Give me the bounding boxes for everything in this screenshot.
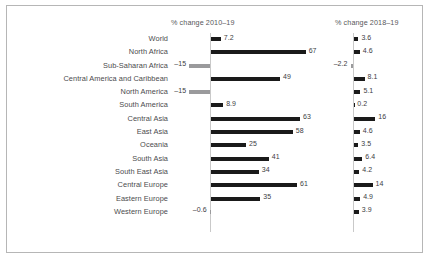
bar-right-panel-3 (354, 77, 365, 81)
bar-right-panel-9 (354, 157, 363, 161)
category-label: Oceania (0, 140, 168, 149)
chart-row: Western Europe–0.63.9 (0, 206, 429, 219)
value-label-right-panel-2: –2.2 (0, 60, 348, 67)
chart-figure: % change 2010–19 % change 2018–19 World7… (0, 0, 429, 274)
bar-left-panel-7 (211, 130, 293, 134)
chart-row: Central America and Caribbean498.1 (0, 73, 429, 86)
value-label-left-panel-6: 63 (303, 113, 311, 120)
value-label-left-panel-10: 34 (262, 166, 270, 173)
category-label: Central America and Caribbean (0, 74, 168, 83)
value-label-left-panel-11: 61 (300, 180, 308, 187)
bar-left-panel-9 (211, 157, 269, 161)
bar-left-panel-12 (211, 197, 261, 201)
right-panel-header: % change 2018–19 (335, 18, 399, 27)
bar-right-panel-6 (354, 117, 376, 121)
value-label-right-panel-10: 4.2 (362, 166, 372, 173)
chart-row: Oceania253.5 (0, 139, 429, 152)
bar-right-panel-2 (351, 64, 354, 68)
bar-right-panel-4 (354, 90, 361, 94)
value-label-right-panel-0: 3.6 (361, 34, 371, 41)
chart-row: World7.23.6 (0, 33, 429, 46)
category-label: South America (0, 100, 168, 109)
chart-rows: World7.23.6North Africa674.6Sub-Saharan … (0, 33, 429, 219)
chart-row: Sub-Saharan Africa–15–2.2 (0, 60, 429, 73)
value-label-right-panel-11: 14 (376, 180, 384, 187)
category-label: Eastern Europe (0, 194, 168, 203)
bar-right-panel-12 (354, 197, 361, 201)
value-label-right-panel-7: 4.6 (363, 127, 373, 134)
bar-right-panel-13 (354, 210, 359, 214)
value-label-right-panel-8: 3.5 (361, 140, 371, 147)
category-label: East Asia (0, 127, 168, 136)
value-label-left-panel-9: 41 (272, 153, 280, 160)
bar-left-panel-0 (211, 37, 221, 41)
bar-left-panel-1 (211, 50, 306, 54)
chart-row: South East Asia344.2 (0, 166, 429, 179)
chart-row: Eastern Europe354.9 (0, 193, 429, 206)
value-label-right-panel-9: 6.4 (365, 153, 375, 160)
chart-row: North Africa674.6 (0, 46, 429, 59)
left-panel-header: % change 2010–19 (171, 18, 235, 27)
value-label-left-panel-3: 49 (283, 73, 291, 80)
value-label-right-panel-13: 3.9 (362, 206, 372, 213)
chart-row: South Asia416.4 (0, 153, 429, 166)
value-label-right-panel-3: 8.1 (368, 73, 378, 80)
value-label-left-panel-13: –0.6 (0, 206, 207, 213)
value-label-left-panel-0: 7.2 (224, 34, 234, 41)
bar-right-panel-1 (354, 50, 360, 54)
value-label-left-panel-12: 35 (263, 193, 271, 200)
value-label-right-panel-6: 16 (378, 113, 386, 120)
category-label: South East Asia (0, 167, 168, 176)
bar-right-panel-5 (354, 103, 355, 107)
bar-left-panel-6 (211, 117, 300, 121)
chart-row: East Asia584.6 (0, 126, 429, 139)
chart-row: Central Europe6114 (0, 179, 429, 192)
chart-row: South America8.90.2 (0, 99, 429, 112)
bar-left-panel-3 (211, 77, 281, 81)
value-label-right-panel-1: 4.6 (363, 47, 373, 54)
category-label: Central Europe (0, 180, 168, 189)
bar-left-panel-13 (210, 210, 211, 214)
chart-row: North America–155.1 (0, 86, 429, 99)
value-label-right-panel-12: 4.9 (363, 193, 373, 200)
value-label-left-panel-5: 8.9 (226, 100, 236, 107)
bar-right-panel-0 (354, 37, 359, 41)
bar-right-panel-10 (354, 170, 360, 174)
category-label: South Asia (0, 154, 168, 163)
category-label: North Africa (0, 47, 168, 56)
bar-right-panel-8 (354, 143, 359, 147)
chart-row: Central Asia6316 (0, 113, 429, 126)
value-label-left-panel-1: 67 (309, 47, 317, 54)
bar-left-panel-11 (211, 183, 298, 187)
value-label-left-panel-4: –15 (0, 87, 186, 94)
bar-left-panel-8 (211, 143, 247, 147)
value-label-left-panel-7: 58 (296, 127, 304, 134)
category-label: Central Asia (0, 114, 168, 123)
bar-left-panel-4 (189, 90, 210, 94)
bar-right-panel-11 (354, 183, 373, 187)
category-label: World (0, 34, 168, 43)
value-label-left-panel-8: 25 (249, 140, 257, 147)
value-label-right-panel-5: 0.2 (357, 100, 367, 107)
bar-left-panel-10 (211, 170, 259, 174)
bar-right-panel-7 (354, 130, 360, 134)
value-label-right-panel-4: 5.1 (363, 87, 373, 94)
bar-left-panel-5 (211, 103, 224, 107)
